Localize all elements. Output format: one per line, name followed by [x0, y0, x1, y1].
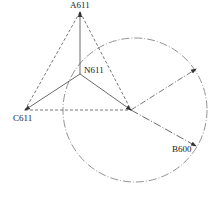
dashed-line-a-c — [25, 12, 80, 110]
label-a611: A611 — [70, 0, 90, 10]
phasor-o-b — [131, 110, 196, 146]
locus-circle — [63, 38, 207, 182]
dashed-line-a-o — [80, 12, 131, 110]
label-b600: B600 — [172, 144, 192, 154]
phasor-n-o — [80, 74, 131, 110]
label-n611: N611 — [84, 65, 104, 75]
phasor-diagram: A611 N611 C611 B600 — [0, 0, 214, 198]
phasor-n-c — [25, 74, 80, 110]
label-c611: C611 — [13, 113, 32, 123]
radius-vector — [131, 69, 196, 110]
